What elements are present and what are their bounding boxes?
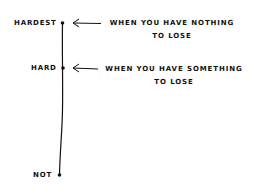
- annotation-something-to-lose: WHEN YOU HAVE SOMETHING TO LOSE: [103, 63, 245, 89]
- annotation-line: WHEN YOU HAVE SOMETHING: [103, 63, 245, 76]
- arrow-hard-icon: [73, 64, 98, 72]
- label-hard: HARD: [31, 64, 57, 72]
- label-hardest: HARDEST: [14, 19, 57, 27]
- annotation-line: WHEN YOU HAVE NOTHING: [106, 17, 238, 30]
- label-not: NOT: [33, 171, 52, 179]
- annotation-line: TO LOSE: [106, 30, 238, 43]
- annotation-nothing-to-lose: WHEN YOU HAVE NOTHING TO LOSE: [106, 17, 238, 43]
- annotation-line: TO LOSE: [103, 76, 245, 89]
- vertical-axis-line: [60, 23, 63, 175]
- point-hard: [61, 66, 65, 70]
- point-not: [58, 173, 62, 177]
- arrow-hardest-icon: [73, 19, 101, 27]
- point-hardest: [61, 21, 65, 25]
